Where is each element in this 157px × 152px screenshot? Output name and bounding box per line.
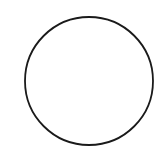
diagram-canvas <box>0 0 157 152</box>
diagram-svg <box>0 0 157 152</box>
circle-shape <box>25 17 153 145</box>
